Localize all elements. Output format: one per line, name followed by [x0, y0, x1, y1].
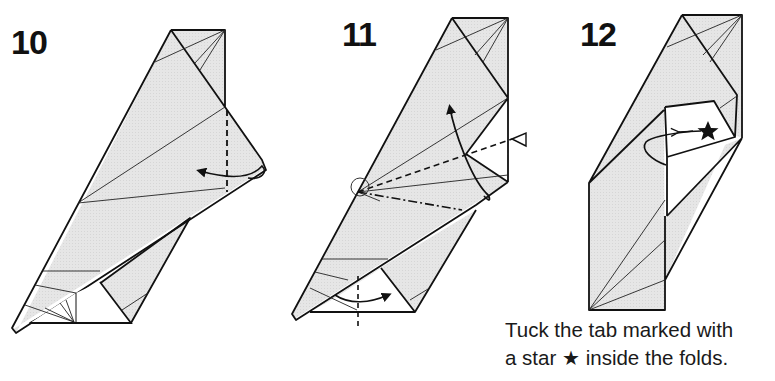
instruction-caption: Tuck the tab marked with a star ★ inside…	[505, 316, 733, 372]
step-12-diagram	[589, 15, 742, 310]
caption-line-2-post: inside the folds.	[586, 346, 728, 369]
paper-upper-body	[589, 15, 742, 183]
caption-line-1: Tuck the tab marked with	[505, 316, 733, 344]
step-11-diagram	[292, 18, 526, 330]
squash-push-icon	[512, 133, 526, 146]
caption-line-2: a star ★ inside the folds.	[505, 344, 733, 372]
caption-line-2-pre: a star	[505, 346, 556, 369]
step-10-diagram	[12, 30, 266, 333]
star-icon-inline: ★	[562, 347, 580, 369]
